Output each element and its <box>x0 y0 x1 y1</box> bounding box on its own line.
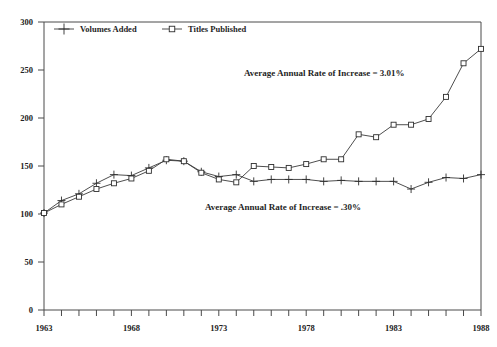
y-axis-tick-label: 200 <box>20 113 33 123</box>
square-marker-icon <box>391 122 396 127</box>
chart-annotation: Average Annual Rate of Increase = .30% <box>205 202 361 212</box>
square-marker-icon <box>169 26 175 32</box>
square-marker-icon <box>479 46 484 51</box>
x-axis-tick-label: 1973 <box>210 323 227 333</box>
x-axis-tick-label: 1978 <box>298 323 315 333</box>
square-marker-icon <box>59 202 64 207</box>
square-marker-icon <box>356 132 361 137</box>
square-marker-icon <box>339 157 344 162</box>
square-marker-icon <box>129 176 134 181</box>
legend-label: Volumes Added <box>80 24 137 34</box>
square-marker-icon <box>234 180 239 185</box>
x-axis-tick-label: 1988 <box>473 323 490 333</box>
square-marker-icon <box>304 162 309 167</box>
y-axis-tick-label: 300 <box>20 17 33 27</box>
square-marker-icon <box>444 94 449 99</box>
y-axis-tick-label: 50 <box>25 257 34 267</box>
square-marker-icon <box>76 194 81 199</box>
square-marker-icon <box>374 135 379 140</box>
y-axis-tick-label: 250 <box>20 65 33 75</box>
y-axis-tick-label: 150 <box>20 161 33 171</box>
square-marker-icon <box>216 177 221 182</box>
square-marker-icon <box>94 187 99 192</box>
legend-label: Titles Published <box>188 24 246 34</box>
square-marker-icon <box>461 61 466 66</box>
y-axis-tick-label: 0 <box>29 305 33 315</box>
x-axis-tick-label: 1983 <box>385 323 402 333</box>
square-marker-icon <box>269 164 274 169</box>
chart-annotation: Average Annual Rate of Increase = 3.01% <box>244 68 405 78</box>
square-marker-icon <box>42 211 47 216</box>
square-marker-icon <box>251 164 256 169</box>
x-axis-tick-label: 1963 <box>36 323 53 333</box>
square-marker-icon <box>199 170 204 175</box>
square-marker-icon <box>111 181 116 186</box>
plot-background <box>0 0 497 347</box>
line-chart: 050100150200250300 196319681973197819831… <box>0 0 497 347</box>
square-marker-icon <box>181 159 186 164</box>
x-axis-tick-label: 1968 <box>123 323 140 333</box>
square-marker-icon <box>146 168 151 173</box>
square-marker-icon <box>426 116 431 121</box>
square-marker-icon <box>409 122 414 127</box>
square-marker-icon <box>164 157 169 162</box>
square-marker-icon <box>286 165 291 170</box>
chart-figure: 050100150200250300 196319681973197819831… <box>0 0 497 347</box>
y-axis-tick-label: 100 <box>20 209 33 219</box>
square-marker-icon <box>321 157 326 162</box>
